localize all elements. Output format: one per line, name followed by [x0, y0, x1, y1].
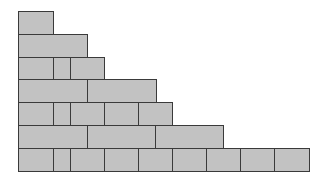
block [18, 148, 54, 172]
block [70, 57, 105, 80]
block-staircase-diagram [0, 0, 325, 178]
block [18, 11, 54, 35]
block [70, 148, 105, 172]
block [172, 148, 207, 172]
block [53, 57, 71, 80]
block [18, 57, 54, 80]
block [206, 148, 241, 172]
block [53, 102, 71, 126]
block [87, 125, 156, 149]
block [18, 125, 88, 149]
block [104, 148, 139, 172]
block [138, 102, 173, 126]
block [18, 102, 54, 126]
block [274, 148, 310, 172]
block [87, 79, 157, 103]
block [240, 148, 275, 172]
block [104, 102, 139, 126]
block [18, 34, 88, 58]
block [18, 79, 88, 103]
block [53, 148, 71, 172]
block [155, 125, 224, 149]
block [70, 102, 105, 126]
block [138, 148, 173, 172]
